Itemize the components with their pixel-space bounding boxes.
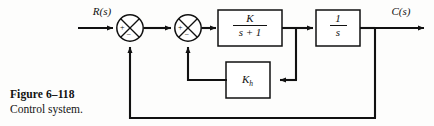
gain-label: Kh: [242, 73, 253, 88]
sum2-minus-sign: −: [185, 31, 190, 39]
plant-numerator: K: [218, 13, 282, 25]
integrator-transfer-function: 1 s: [316, 13, 360, 38]
plant-denominator: s + 1: [218, 26, 282, 38]
sum1-minus-sign: −: [127, 31, 132, 39]
sum1-plus-sign: +: [120, 24, 125, 32]
figure-title: Control system.: [10, 103, 130, 117]
sum2-plus-sign: +: [178, 24, 183, 32]
integrator-denominator: s: [316, 26, 360, 38]
output-signal-label: C(s): [381, 5, 421, 17]
gain-subscript: h: [249, 79, 253, 88]
figure-caption: Figure 6–118 Control system.: [10, 88, 130, 116]
output-signal-text: C(s): [392, 5, 411, 17]
input-signal-text: R(s): [93, 5, 111, 17]
figure-number: Figure 6–118: [10, 88, 130, 102]
input-signal-label: R(s): [82, 5, 122, 17]
figure-container: R(s) C(s) + − + − K s + 1 1 s Kh Figure …: [0, 0, 434, 126]
integrator-numerator: 1: [316, 13, 360, 25]
plant-transfer-function: K s + 1: [218, 13, 282, 38]
